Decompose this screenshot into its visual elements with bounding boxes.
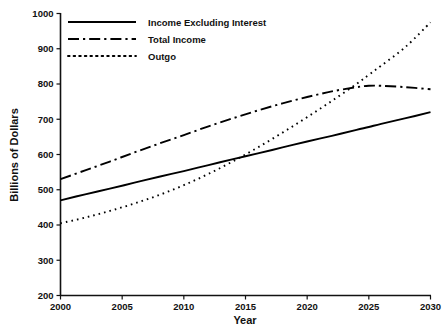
x-tick-label: 2000 (50, 301, 71, 312)
x-tick-label: 2025 (358, 301, 380, 312)
y-tick-label: 200 (38, 290, 54, 301)
y-tick-label: 500 (38, 184, 54, 195)
series-line-1 (61, 86, 431, 180)
y-tick-label: 700 (38, 114, 54, 125)
y-tick-label: 800 (38, 78, 54, 89)
y-tick-label: 400 (38, 219, 54, 230)
series-line-0 (61, 112, 431, 200)
x-axis-title: Year (233, 314, 257, 326)
line-chart-canvas: 2003004005006007008009001000 20002005201… (0, 0, 448, 331)
chart-figure: 2003004005006007008009001000 20002005201… (0, 0, 448, 331)
x-tick-label: 2005 (112, 301, 134, 312)
y-tick-label: 900 (38, 43, 54, 54)
y-axis-tick-labels: 2003004005006007008009001000 (32, 8, 53, 301)
series-line-2 (61, 22, 431, 223)
plot-frame (60, 13, 431, 296)
data-series-group (61, 22, 431, 223)
x-tick-label: 2015 (235, 301, 257, 312)
y-axis-title: Billions of Dollars (8, 108, 20, 202)
legend-label-2: Outgo (148, 51, 176, 62)
x-tick-label: 2030 (420, 301, 441, 312)
y-tick-label: 300 (38, 255, 54, 266)
legend-label-0: Income Excluding Interest (148, 17, 267, 28)
x-tick-label: 2020 (297, 301, 318, 312)
x-axis-tick-labels: 2000200520102015202020252030 (50, 301, 441, 312)
legend-label-1: Total Income (148, 34, 206, 45)
y-tick-label: 600 (38, 149, 54, 160)
x-tick-label: 2010 (173, 301, 194, 312)
chart-legend: Income Excluding InterestTotal IncomeOut… (68, 17, 267, 62)
y-tick-label: 1000 (32, 8, 53, 19)
